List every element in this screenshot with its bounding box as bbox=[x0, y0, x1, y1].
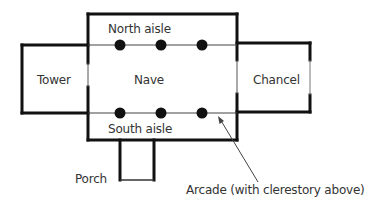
label-arcade: Arcade (with clerestory above) bbox=[186, 184, 365, 196]
pillar-icon bbox=[156, 40, 167, 51]
label-porch: Porch bbox=[75, 173, 107, 185]
plan-drawing bbox=[0, 0, 370, 209]
church-plan-diagram: North aisle Tower Nave Chancel South ais… bbox=[0, 0, 370, 209]
label-nave: Nave bbox=[134, 74, 164, 86]
label-chancel: Chancel bbox=[253, 74, 300, 86]
pillar-icon bbox=[156, 108, 167, 119]
label-north-aisle: North aisle bbox=[108, 23, 171, 35]
label-tower: Tower bbox=[37, 74, 71, 86]
north-arcade bbox=[88, 40, 237, 51]
pillar-icon bbox=[197, 108, 208, 119]
pillar-icon bbox=[115, 40, 126, 51]
pillar-icon bbox=[197, 40, 208, 51]
south-arcade bbox=[88, 108, 237, 119]
label-south-aisle: South aisle bbox=[108, 123, 172, 135]
pillar-icon bbox=[115, 108, 126, 119]
porch-walls bbox=[120, 140, 154, 180]
